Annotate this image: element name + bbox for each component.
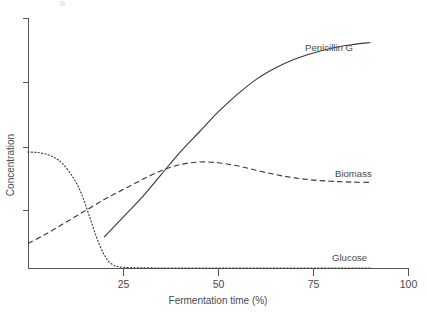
chart-figure: 25 50 75 100 Fermentation time (%) Conce… <box>0 0 427 312</box>
curve-penicillin <box>104 43 370 238</box>
curve-glucose <box>28 152 370 268</box>
x-tick-label-50: 50 <box>213 278 225 290</box>
x-tick-label-25: 25 <box>118 278 130 290</box>
y-axis-title: Concentration <box>5 134 16 196</box>
x-axis-ticks <box>124 269 409 276</box>
x-axis-title: Fermentation time (%) <box>169 295 268 306</box>
x-tick-label-100: 100 <box>400 278 418 290</box>
series-label-penicillin: Penicillin G <box>305 42 353 53</box>
scan-artifact <box>60 1 65 6</box>
x-tick-label-75: 75 <box>308 278 320 290</box>
series-label-glucose: Glucose <box>332 252 367 263</box>
series-label-biomass: Biomass <box>335 168 372 179</box>
y-axis-ticks <box>23 19 29 211</box>
curve-biomass <box>28 162 370 244</box>
chart-svg: 25 50 75 100 Fermentation time (%) Conce… <box>0 0 427 312</box>
